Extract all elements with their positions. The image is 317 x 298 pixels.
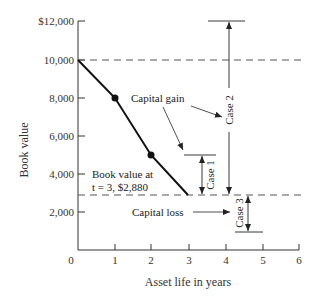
annotation-t3-value: t = 3, $2,880 <box>92 181 149 193</box>
x-tick-label: 6 <box>296 254 302 266</box>
y-tick-label: 2,000 <box>49 206 74 218</box>
data-point-marker <box>112 95 119 102</box>
case-1-label: Case 1 <box>204 160 216 190</box>
y-tick-label: 6,000 <box>49 130 74 142</box>
x-tick-label: 0 <box>68 254 74 266</box>
annotation-book-value-at: Book value at <box>92 168 153 180</box>
x-tick-label: 4 <box>223 254 229 266</box>
data-point-marker <box>148 152 155 159</box>
y-axis-title: Book value <box>17 123 31 178</box>
annotation-capital-gain: Capital gain <box>131 92 185 104</box>
x-tick-label: 2 <box>148 254 154 266</box>
x-tick-label: 5 <box>260 254 266 266</box>
y-tick-label: 4,000 <box>49 168 74 180</box>
x-tick-label: 1 <box>112 254 118 266</box>
annotation-capital-loss: Capital loss <box>132 206 184 218</box>
y-tick-label: 10,000 <box>44 54 75 66</box>
x-axis-title: Asset life in years <box>145 275 232 289</box>
capital-gain-arrow <box>191 106 222 117</box>
y-tick-label: $12,000 <box>38 15 74 27</box>
capital-gain-arrow <box>163 107 183 150</box>
case-3-label: Case 3 <box>233 198 245 228</box>
x-tick-label: 3 <box>186 254 192 266</box>
chart: $12,000 10,000 8,000 6,000 4,000 2,000 0… <box>0 0 317 298</box>
case-2-label: Case 2 <box>223 95 235 125</box>
y-tick-label: 8,000 <box>49 92 74 104</box>
